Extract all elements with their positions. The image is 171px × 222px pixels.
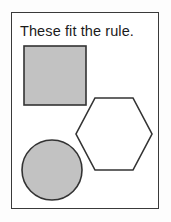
rule-card: These fit the rule. bbox=[0, 0, 171, 222]
white-hexagon bbox=[76, 98, 152, 170]
shape-layer bbox=[0, 0, 171, 222]
gray-square bbox=[24, 46, 86, 105]
gray-circle bbox=[22, 140, 82, 200]
